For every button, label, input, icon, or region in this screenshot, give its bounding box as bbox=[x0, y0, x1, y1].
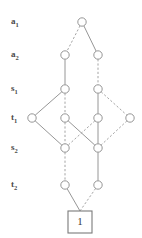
bdd-edge-solid bbox=[35, 121, 62, 145]
bdd-node[interactable] bbox=[94, 181, 102, 189]
terminal-layer: 1 bbox=[68, 211, 92, 233]
row-label-subscript: 2 bbox=[16, 54, 19, 61]
bdd-canvas: 1 a1a2s1t1s2t2 bbox=[0, 0, 142, 238]
row-label-subscript: 1 bbox=[15, 88, 18, 95]
bdd-node[interactable] bbox=[28, 114, 36, 122]
bdd-edge-dashed bbox=[80, 188, 96, 211]
bdd-node[interactable] bbox=[94, 144, 102, 152]
bdd-edge-dashed bbox=[101, 92, 127, 115]
row-label-t2: t2 bbox=[11, 179, 17, 191]
row-label-s1: s1 bbox=[11, 83, 18, 95]
bdd-edge-dashed bbox=[101, 121, 127, 145]
row-label-a1: a1 bbox=[11, 16, 19, 28]
bdd-edge-solid bbox=[67, 189, 80, 211]
bdd-node[interactable] bbox=[61, 181, 69, 189]
bdd-node[interactable] bbox=[126, 114, 134, 122]
terminal-node-label: 1 bbox=[77, 215, 83, 227]
bdd-node[interactable] bbox=[94, 51, 102, 59]
bdd-edge-dashed bbox=[67, 26, 80, 52]
bdd-diagram: 1 a1a2s1t1s2t2 bbox=[0, 0, 142, 238]
bdd-node[interactable] bbox=[78, 18, 86, 26]
row-labels-layer: a1a2s1t1s2t2 bbox=[11, 16, 19, 191]
row-label-subscript: 2 bbox=[15, 147, 18, 154]
row-label-t1: t1 bbox=[11, 112, 17, 124]
bdd-edge-solid bbox=[84, 26, 96, 51]
row-label-a2: a2 bbox=[11, 49, 19, 61]
row-label-subscript: 1 bbox=[14, 117, 17, 124]
nodes-layer bbox=[28, 18, 134, 189]
row-label-s2: s2 bbox=[11, 142, 18, 154]
bdd-node[interactable] bbox=[61, 51, 69, 59]
edges-layer bbox=[35, 26, 127, 211]
bdd-node[interactable] bbox=[94, 85, 102, 93]
bdd-node[interactable] bbox=[61, 144, 69, 152]
bdd-node[interactable] bbox=[61, 85, 69, 93]
row-label-subscript: 2 bbox=[14, 184, 17, 191]
bdd-node[interactable] bbox=[94, 114, 102, 122]
bdd-edge-solid bbox=[35, 92, 62, 115]
bdd-node[interactable] bbox=[61, 114, 69, 122]
row-label-subscript: 1 bbox=[16, 21, 19, 28]
